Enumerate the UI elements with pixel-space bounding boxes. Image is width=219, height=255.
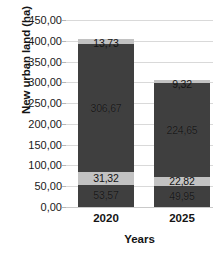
y-tick-label: 250,00 [4,98,62,109]
y-tick-mark [62,82,66,83]
bar-segment-label: 31,32 [93,173,118,184]
y-tick-label: 200,00 [4,119,62,130]
bar-segment[interactable]: 224,65 [154,83,210,176]
bar-stack[interactable]: 53,5731,32306,6713,73 [78,20,134,207]
y-tick-mark [62,62,66,63]
y-tick-mark [62,20,66,21]
y-tick-label: 50,00 [4,181,62,192]
bar-segment-label: 53,57 [93,190,118,201]
bar-segment-label: 49,95 [169,191,194,202]
y-tick-label: 100,00 [4,160,62,171]
bar-segment[interactable]: 31,32 [78,172,134,185]
y-tick-label: 300,00 [4,77,62,88]
y-tick-mark [62,124,66,125]
bar-segment-label: 22,82 [169,176,194,187]
y-tick-mark [62,165,66,166]
x-tick-label: 2020 [71,212,141,224]
y-tick-mark [62,186,66,187]
bar-segment[interactable]: 13,73 [78,39,134,45]
y-tick-mark [62,207,66,208]
bar-segment-label: 306,67 [91,103,122,114]
y-tick-label: 450,00 [4,15,62,26]
bar-stack[interactable]: 49,9522,82224,659,32 [154,20,210,207]
stacked-bar-chart: New urban land (ha) 450,00400,00350,0030… [0,0,219,255]
y-tick-label: 400,00 [4,36,62,47]
y-tick-label: 0,00 [4,202,62,213]
y-tick-mark [62,41,66,42]
bar-segment[interactable]: 9,32 [154,80,210,84]
x-tick-label: 2025 [147,212,217,224]
bar-segment-label: 13,73 [93,38,118,49]
bar-segment[interactable]: 53,57 [78,185,134,207]
y-tick-label: 150,00 [4,140,62,151]
y-tick-label: 350,00 [4,57,62,68]
gridline [66,207,213,208]
plot-area: 53,5731,32306,6713,7349,9522,82224,659,3… [66,20,213,207]
bar-segment-label: 9,32 [172,79,192,90]
bar-segment[interactable]: 49,95 [154,186,210,207]
bar-segment[interactable]: 22,82 [154,177,210,186]
y-tick-mark [62,103,66,104]
bar-segment[interactable]: 306,67 [78,44,134,171]
bar-segment-label: 224,65 [167,125,198,136]
x-axis-title: Years [66,233,213,245]
y-tick-mark [62,145,66,146]
